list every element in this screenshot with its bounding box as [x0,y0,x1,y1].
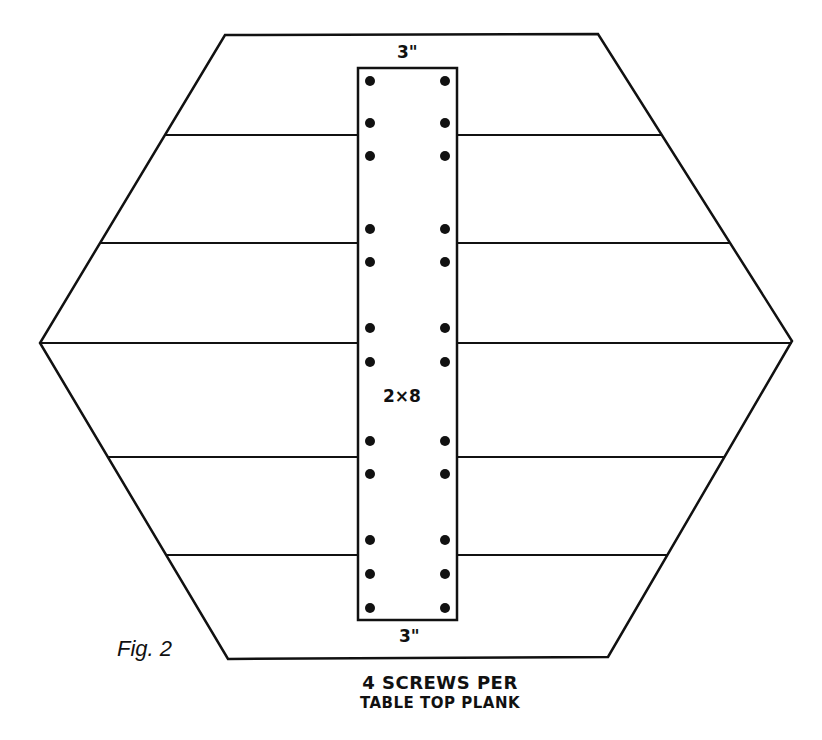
screw-icon [440,603,450,613]
bottom-offset-label: 3" [399,626,420,646]
screw-icon [440,357,450,367]
table-top-diagram: 3" 2×8 3" [0,0,822,740]
screw-icon [365,323,375,333]
screw-icon [365,535,375,545]
screw-icon [365,603,375,613]
screw-icon [365,224,375,234]
screw-icon [440,151,450,161]
screw-icon [440,118,450,128]
screw-icon [365,469,375,479]
screw-icon [365,118,375,128]
screw-icon [365,357,375,367]
screw-icon [365,569,375,579]
screw-icon [440,76,450,86]
screw-icon [440,469,450,479]
screw-caption: 4 SCREWS PER TABLE TOP PLANK [340,672,540,714]
screw-icon [440,569,450,579]
screw-icon [440,224,450,234]
screw-icon [440,436,450,446]
screw-icon [365,151,375,161]
screw-icon [440,323,450,333]
screw-icon [365,436,375,446]
caption-line-2: TABLE TOP PLANK [340,693,540,714]
screw-icon [365,76,375,86]
figure-label: Fig. 2 [117,636,172,662]
screw-icon [365,257,375,267]
board-size-label: 2×8 [383,386,421,406]
top-offset-label: 3" [397,42,418,62]
caption-line-1: 4 SCREWS PER [340,672,540,693]
screw-icon [440,257,450,267]
screw-icon [440,535,450,545]
